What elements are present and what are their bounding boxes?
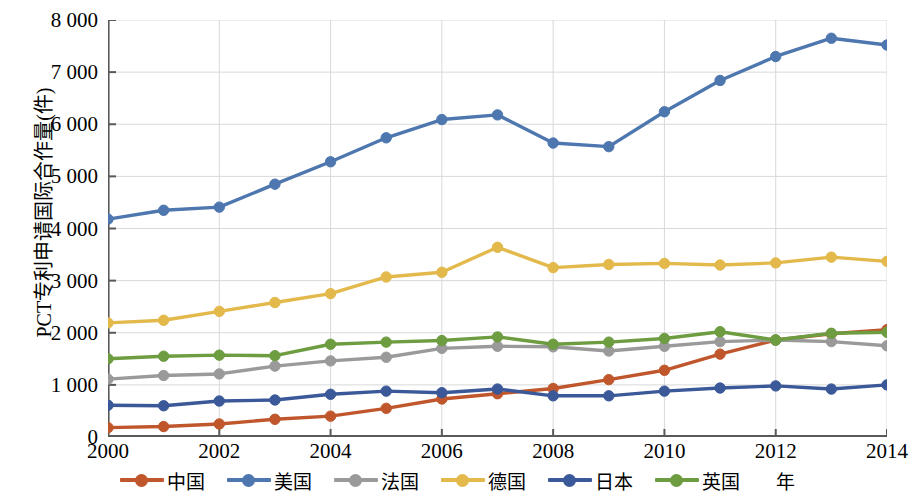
data-point[interactable] [659, 365, 669, 375]
series-美国 [108, 33, 887, 224]
data-point[interactable] [108, 214, 113, 224]
data-point[interactable] [381, 337, 391, 347]
data-point[interactable] [771, 381, 781, 391]
plot-svg [108, 20, 887, 437]
data-point[interactable] [659, 386, 669, 396]
data-point[interactable] [270, 350, 280, 360]
data-point[interactable] [659, 258, 669, 268]
legend-label: 中国 [167, 467, 205, 494]
data-point[interactable] [826, 328, 836, 338]
data-point[interactable] [437, 335, 447, 345]
data-point[interactable] [548, 262, 558, 272]
data-point[interactable] [158, 351, 168, 361]
data-point[interactable] [108, 422, 113, 432]
line-chart: PCT专利申请国际合作量(件) 01 0002 0003 0004 0005 0… [0, 0, 914, 494]
y-axis-tick-label: 1 000 [0, 374, 98, 395]
data-point[interactable] [270, 414, 280, 424]
data-point[interactable] [882, 380, 887, 390]
legend-item-法国[interactable]: 法国 [334, 467, 419, 494]
data-point[interactable] [270, 297, 280, 307]
data-point[interactable] [381, 272, 391, 282]
data-point[interactable] [604, 374, 614, 384]
data-point[interactable] [270, 395, 280, 405]
legend-item-中国[interactable]: 中国 [120, 467, 205, 494]
data-point[interactable] [381, 352, 391, 362]
y-axis-tick-label: 8 000 [0, 10, 98, 31]
legend-swatch-icon [227, 472, 271, 488]
legend-marker-dot [242, 474, 255, 487]
data-point[interactable] [604, 337, 614, 347]
data-point[interactable] [381, 403, 391, 413]
data-point[interactable] [270, 361, 280, 371]
legend-label: 日本 [595, 467, 633, 494]
legend-label: 德国 [488, 467, 526, 494]
x-axis-tick-label: 2002 [174, 441, 264, 462]
data-point[interactable] [771, 335, 781, 345]
data-point[interactable] [604, 259, 614, 269]
data-point[interactable] [214, 419, 224, 429]
data-point[interactable] [548, 391, 558, 401]
data-point[interactable] [882, 341, 887, 351]
data-point[interactable] [270, 179, 280, 189]
data-point[interactable] [826, 384, 836, 394]
y-axis-tick-label: 3 000 [0, 270, 98, 291]
data-point[interactable] [604, 141, 614, 151]
data-point[interactable] [325, 356, 335, 366]
data-point[interactable] [437, 387, 447, 397]
data-point[interactable] [715, 75, 725, 85]
data-point[interactable] [108, 318, 113, 328]
data-point[interactable] [325, 411, 335, 421]
data-point[interactable] [659, 107, 669, 117]
legend-item-日本[interactable]: 日本 [548, 467, 633, 494]
data-point[interactable] [715, 349, 725, 359]
data-point[interactable] [492, 332, 502, 342]
legend-swatch-icon [120, 472, 164, 488]
data-point[interactable] [604, 391, 614, 401]
series-line [108, 38, 887, 219]
data-point[interactable] [548, 339, 558, 349]
data-point[interactable] [882, 40, 887, 50]
data-point[interactable] [325, 339, 335, 349]
data-point[interactable] [214, 202, 224, 212]
data-point[interactable] [214, 306, 224, 316]
data-point[interactable] [771, 51, 781, 61]
data-point[interactable] [108, 354, 113, 364]
plot-area [108, 20, 887, 437]
data-point[interactable] [158, 421, 168, 431]
data-point[interactable] [381, 386, 391, 396]
data-point[interactable] [826, 33, 836, 43]
data-point[interactable] [492, 110, 502, 120]
data-point[interactable] [659, 333, 669, 343]
data-point[interactable] [108, 374, 113, 384]
legend-item-英国[interactable]: 英国 [655, 467, 740, 494]
data-point[interactable] [214, 396, 224, 406]
data-point[interactable] [492, 384, 502, 394]
data-point[interactable] [437, 267, 447, 277]
x-axis-tick-label: 2006 [397, 441, 487, 462]
data-point[interactable] [158, 315, 168, 325]
data-point[interactable] [715, 336, 725, 346]
data-point[interactable] [437, 114, 447, 124]
data-point[interactable] [214, 350, 224, 360]
legend-label: 美国 [274, 467, 312, 494]
data-point[interactable] [492, 341, 502, 351]
data-point[interactable] [882, 256, 887, 266]
data-point[interactable] [492, 242, 502, 252]
data-point[interactable] [108, 400, 113, 410]
data-point[interactable] [214, 369, 224, 379]
data-point[interactable] [771, 258, 781, 268]
legend-item-美国[interactable]: 美国 [227, 467, 312, 494]
legend-item-德国[interactable]: 德国 [441, 467, 526, 494]
data-point[interactable] [325, 389, 335, 399]
data-point[interactable] [715, 327, 725, 337]
data-point[interactable] [325, 157, 335, 167]
data-point[interactable] [548, 138, 558, 148]
data-point[interactable] [715, 383, 725, 393]
data-point[interactable] [381, 133, 391, 143]
data-point[interactable] [158, 370, 168, 380]
data-point[interactable] [325, 288, 335, 298]
data-point[interactable] [715, 260, 725, 270]
data-point[interactable] [158, 205, 168, 215]
data-point[interactable] [826, 252, 836, 262]
data-point[interactable] [158, 401, 168, 411]
